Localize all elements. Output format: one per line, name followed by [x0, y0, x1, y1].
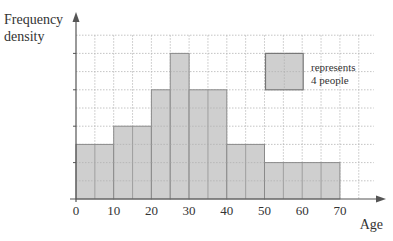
x-tick-label: 20: [145, 203, 158, 218]
y-axis-arrow-icon: [73, 12, 80, 22]
x-tick-label: 40: [220, 203, 233, 218]
key: [266, 53, 304, 89]
x-tick-label: 10: [107, 203, 120, 218]
x-tick-label: 50: [258, 203, 271, 218]
key-label-line2: 4 people: [311, 74, 349, 86]
x-axis-label: Age: [360, 217, 383, 232]
x-tick-labels: 010203040506070: [73, 203, 347, 218]
x-axis-arrow-icon: [376, 196, 386, 203]
x-tick-label: 30: [183, 203, 196, 218]
x-tick-label: 0: [73, 203, 80, 218]
histogram-chart: 010203040506070 Age represents 4 people: [0, 0, 393, 241]
key-label-line1: represents: [311, 61, 356, 73]
x-tick-label: 60: [296, 203, 309, 218]
x-tick-label: 70: [333, 203, 346, 218]
